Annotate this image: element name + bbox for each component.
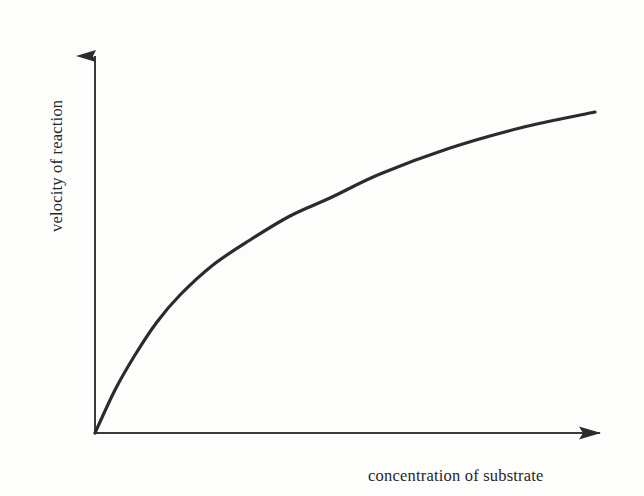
velocity-curve — [95, 112, 595, 433]
x-axis-label: concentration of substrate — [368, 466, 544, 486]
y-axis-label: velocity of reaction — [47, 100, 67, 232]
enzyme-kinetics-plot — [0, 0, 644, 496]
figure-canvas: velocity of reaction concentration of su… — [0, 0, 644, 496]
